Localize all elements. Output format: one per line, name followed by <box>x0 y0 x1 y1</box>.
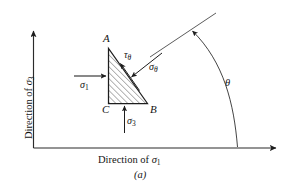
vertex-label-c: C <box>102 104 109 115</box>
tau-theta-label: τθ <box>124 50 131 60</box>
y-axis-label-symbol: σ <box>23 80 34 85</box>
vertex-label-a: A <box>103 33 110 44</box>
stress-element-figure: A C B σ1 σ3 τθ σθ θ Direction of σ3 Dire… <box>0 0 287 187</box>
sigma3-subscript: 3 <box>132 119 136 128</box>
theta-angle-label: θ <box>225 78 230 89</box>
sigma-theta-label: σθ <box>149 62 158 72</box>
sigma1-subscript: 1 <box>85 83 89 92</box>
theta-angle-arc <box>193 31 238 147</box>
x-axis-label-subscript: 1 <box>157 158 161 167</box>
y-axis-label-subscript: 3 <box>27 76 36 80</box>
figure-caption: (a) <box>134 170 146 181</box>
y-axis-label-prefix: Direction of <box>23 85 34 139</box>
x-axis-label: Direction of σ1 <box>98 155 161 166</box>
sigma1-label: σ1 <box>80 80 89 90</box>
sigma-theta-subscript: θ <box>154 65 158 74</box>
vertex-label-b: B <box>150 104 157 115</box>
tau-theta-subscript: θ <box>128 53 132 62</box>
y-axis-label: Direction of σ3 <box>24 76 35 139</box>
sigma3-label: σ3 <box>127 116 136 126</box>
x-axis-label-prefix: Direction of <box>98 154 152 165</box>
inclined-plane-ray <box>150 13 216 57</box>
